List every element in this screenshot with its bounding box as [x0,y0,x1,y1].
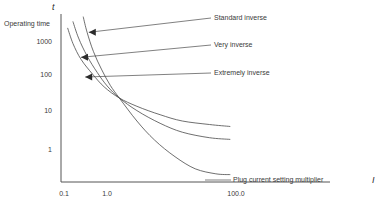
x-axis-symbol: I [372,176,375,185]
annotation-label-very-inverse: Very inverse [214,41,253,48]
x-tick-label-0-1: 0.1 [49,190,79,197]
y-tick-label-100: 100 [24,71,52,78]
y-axis-symbol: t [52,3,55,12]
annotation-label-extremely-inverse: Extremely inverse [214,69,270,76]
y-tick-label-1000: 1000 [24,38,52,45]
x-axis-label: Plug current setting multiplier [233,176,323,183]
annotation-label-standard-inverse: Standard inverse [214,14,267,21]
curve-very-inverse [73,21,230,139]
chart-plot-area [0,0,389,211]
y-axis-label: Operating time [4,20,50,27]
chart-figure: t I Operating time Plug current setting … [0,0,389,211]
y-tick-label-10: 10 [24,107,52,114]
annotation-leader-very-inverse [81,45,211,61]
x-tick-label-1-0: 1.0 [92,190,122,197]
axes [61,14,330,182]
x-tick-label-100-0: 100.0 [221,190,251,197]
annotation-leader-standard-inverse [89,18,211,36]
y-tick-label-1: 1 [24,146,52,153]
curve-extremely-inverse [83,17,230,175]
